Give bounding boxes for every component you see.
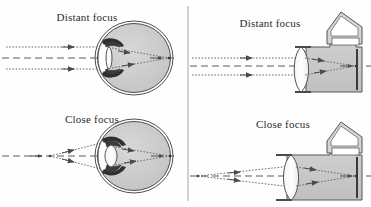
panel-label-camera-distant: Distant focus (240, 17, 301, 29)
panel-eye-close: Close focus (2, 113, 178, 193)
camera-close-pentaprism (331, 126, 358, 146)
camera-close-viewfinder-window (332, 148, 359, 155)
eye-lens-rounded (105, 145, 117, 167)
eye-lens-flattened (106, 47, 112, 69)
eye-close-focal-point (169, 155, 172, 158)
eye-focal-point (168, 57, 171, 60)
camera-pentaprism (331, 16, 358, 36)
camera-lens-retracted (294, 47, 308, 92)
panel-camera-close: Close focus (190, 118, 371, 200)
panel-eye-distant: Distant focus (2, 11, 178, 95)
figure-container: Distant focus (0, 0, 371, 207)
camera-lens-extended (284, 155, 299, 200)
panel-label-camera-close: Close focus (256, 118, 310, 130)
camera-viewfinder-window (332, 38, 359, 45)
optics-diagram-svg: Distant focus (0, 0, 371, 207)
panel-camera-distant: Distant focus (190, 12, 371, 92)
panel-label-eye-distant: Distant focus (57, 11, 118, 23)
panel-label-eye-close: Close focus (65, 113, 119, 125)
camera-focal-point (355, 65, 358, 68)
camera-close-focal-point (355, 175, 358, 178)
